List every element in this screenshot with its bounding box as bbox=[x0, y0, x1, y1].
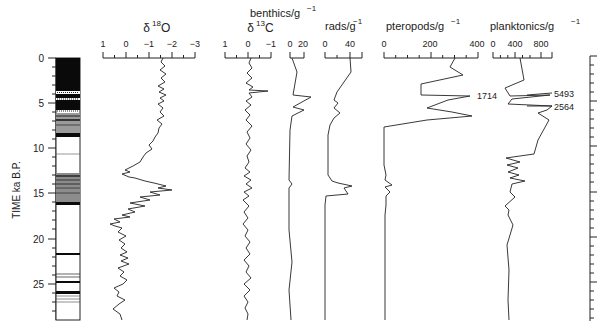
d18o-title-delta: δ bbox=[143, 21, 150, 35]
benthics-line bbox=[289, 58, 311, 320]
pteropods-tick: 0 bbox=[381, 39, 386, 49]
d18o-tick: −2 bbox=[167, 39, 177, 49]
pteropods-title: pteropods/g bbox=[386, 20, 444, 32]
rads-tick: 40 bbox=[345, 39, 355, 49]
time-tick-5: 5 bbox=[38, 98, 44, 109]
planktonics-title-sup: −1 bbox=[571, 17, 581, 26]
d13c-line bbox=[243, 58, 268, 320]
rads-line bbox=[325, 58, 352, 320]
time-tick-labels: 0 5 10 15 20 25 bbox=[33, 53, 45, 290]
rads-tick: 0 bbox=[322, 39, 327, 49]
benthics-tick: 0 bbox=[287, 39, 292, 49]
benthics-panel: benthics/g −1 0 20 bbox=[250, 4, 317, 320]
benthics-title: benthics/g bbox=[250, 7, 300, 19]
pteropods-title-sup: −1 bbox=[451, 17, 461, 26]
d18o-line bbox=[110, 58, 172, 320]
pteropods-tick: 200 bbox=[422, 39, 437, 49]
planktonics-tick: 800 bbox=[533, 39, 548, 49]
rads-title-sup: −1 bbox=[353, 17, 363, 26]
pteropods-annotation: 1714 bbox=[477, 91, 497, 101]
time-tick-25: 25 bbox=[33, 279, 45, 290]
pteropods-line bbox=[384, 58, 472, 320]
planktonics-tick: 0 bbox=[490, 39, 495, 49]
planktonics-line bbox=[505, 58, 552, 320]
planktonics-tick: 400 bbox=[507, 39, 522, 49]
d18o-tick: −3 bbox=[190, 39, 200, 49]
pteropods-tick: 400 bbox=[469, 39, 484, 49]
right-time-axis bbox=[590, 56, 597, 321]
d18o-tick: 1 bbox=[100, 39, 105, 49]
d18o-panel: δ 18 O 1 0 −1 −2 −3 bbox=[100, 19, 200, 320]
planktonics-panel: planktonics/g −1 0 400 800 5493 2564 bbox=[490, 17, 581, 320]
time-axis-title: TIME ka B.P. bbox=[11, 161, 22, 219]
stratigraphic-chart: 0 5 10 15 20 25 TIME ka B.P. bbox=[0, 0, 611, 333]
planktonics-annotation-5493: 5493 bbox=[554, 89, 574, 99]
d18o-tick: 0 bbox=[123, 39, 128, 49]
rads-panel: rads/g −1 0 40 bbox=[322, 17, 362, 320]
time-axis bbox=[48, 58, 56, 320]
planktonics-annotation-2564: 2564 bbox=[554, 102, 574, 112]
d13c-panel: δ 13 C 1 0 −1 bbox=[222, 19, 276, 320]
d13c-tick: −1 bbox=[266, 39, 276, 49]
lithology-column bbox=[56, 58, 80, 320]
benthics-tick: 20 bbox=[298, 39, 308, 49]
time-tick-20: 20 bbox=[33, 234, 45, 245]
time-tick-15: 15 bbox=[33, 188, 45, 199]
time-tick-10: 10 bbox=[33, 143, 45, 154]
d13c-tick: 0 bbox=[245, 39, 250, 49]
d18o-tick: −1 bbox=[144, 39, 154, 49]
d13c-title-main: C bbox=[265, 21, 274, 35]
d13c-tick: 1 bbox=[222, 39, 227, 49]
d13c-title-delta: δ bbox=[247, 21, 254, 35]
pteropods-panel: pteropods/g −1 0 200 400 1714 bbox=[381, 17, 497, 320]
planktonics-title: planktonics/g bbox=[490, 20, 554, 32]
d18o-title-main: O bbox=[161, 21, 170, 35]
time-tick-0: 0 bbox=[38, 53, 44, 64]
rads-title: rads/g bbox=[325, 20, 356, 32]
benthics-title-sup: −1 bbox=[307, 4, 317, 13]
